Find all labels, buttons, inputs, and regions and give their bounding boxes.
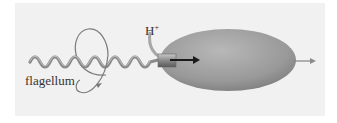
motion-arrowhead (310, 58, 316, 64)
flagellum-label: flagellum (25, 73, 75, 89)
rotation-arrow-back (75, 29, 108, 75)
flagellum-diagram (0, 0, 337, 123)
proton-label: H+ (145, 23, 159, 39)
proton-symbol: H (145, 23, 154, 38)
proton-charge: + (154, 23, 159, 32)
